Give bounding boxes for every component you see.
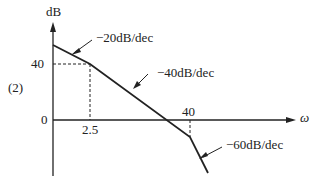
y-axis-label: dB: [46, 4, 61, 20]
figure-label: (2): [8, 80, 23, 96]
tick-x-40: 40: [182, 104, 195, 120]
x-axis-label: ω: [300, 110, 309, 126]
slope-annotation-40: −40dB/dec: [157, 65, 214, 81]
bode-plot: [0, 0, 314, 183]
tick-y-40: 40: [31, 56, 44, 72]
bode-diagram: dB ω (2) 40 0 2.5 40 −20dB/dec −40dB/dec…: [0, 0, 314, 183]
slope-annotation-60: −60dB/dec: [226, 137, 283, 153]
tick-x-2-5: 2.5: [82, 122, 98, 138]
tick-y-0: 0: [41, 112, 48, 128]
slope-annotation-20: −20dB/dec: [96, 30, 153, 46]
